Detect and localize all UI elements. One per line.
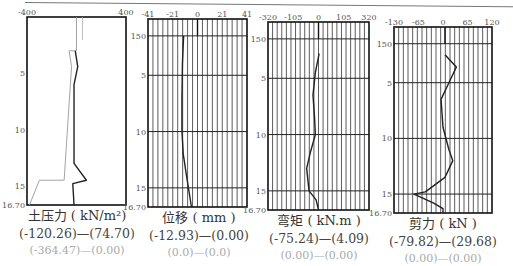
x-tick-label: 65	[462, 18, 472, 27]
x-tick-label: -65	[412, 18, 425, 27]
y-tick-label: 10	[256, 131, 266, 140]
earth-pressure-light-curve	[29, 17, 76, 205]
x-tick-label: 105	[336, 13, 351, 22]
x-tick-label: 0	[316, 13, 321, 22]
x-tick-label: -105	[284, 13, 302, 22]
y-tick-label: 10	[15, 126, 25, 135]
x-tick-label: -21	[166, 10, 179, 19]
x-tick-label: -41	[142, 10, 155, 19]
earth-pressure-dark-curve	[73, 51, 87, 205]
x-tick-label: 41	[242, 10, 252, 19]
y-tick-label: 5	[261, 74, 266, 83]
y-tick-label: 5	[141, 71, 146, 80]
displacement-curve	[182, 36, 192, 207]
y-tick-label: 10	[136, 128, 146, 137]
caption-range-primary: (-79.82)—(29.68)	[383, 233, 503, 251]
y-tick-label: 15	[256, 187, 266, 196]
caption-range-secondary: (0.0)—(0.0)	[140, 245, 258, 261]
x-tick-label: 400	[118, 8, 133, 17]
y-tick-label: 15	[15, 182, 25, 191]
x-tick-label: 0	[440, 18, 445, 27]
chart-panel-4: -130-650651201505101516.70	[369, 18, 500, 218]
x-tick-label: 320	[361, 13, 376, 22]
y-tick-label: 150	[131, 32, 146, 41]
caption-bending-moment: 弯矩 ( kN.m ) (-75.24)—(4.09) (0.00)—(0.00…	[260, 212, 378, 264]
caption-title: 剪力 ( kN )	[383, 215, 503, 233]
caption-range-secondary: (-364.47)—(0.00)	[18, 243, 136, 259]
chart-panel-1: -4004005101516.70	[2, 8, 134, 210]
y-tick-label: 15	[136, 184, 146, 193]
y-tick-label: 5	[387, 79, 392, 88]
y-tick-label: 150	[251, 35, 266, 44]
caption-title: 土压力 ( kN/m²)	[18, 207, 136, 225]
y-tick-label: 10	[382, 134, 392, 143]
y-tick-label: 150	[377, 40, 392, 49]
caption-shear-force: 剪力 ( kN ) (-79.82)—(29.68) (0.00)—(0.00)	[383, 215, 503, 266]
x-tick-label: -400	[18, 8, 36, 17]
caption-range-primary: (-120.26)—(74.70)	[18, 225, 136, 243]
x-tick-label: -130	[385, 18, 403, 27]
caption-range-secondary: (0.00)—(0.00)	[260, 248, 378, 264]
chart-panel-2: -41-21021411505101516.70	[123, 10, 252, 212]
caption-range-primary: (-75.24)—(4.09)	[260, 230, 378, 248]
x-tick-label: 120	[484, 18, 499, 27]
caption-title: 位移 ( mm )	[140, 209, 258, 227]
caption-earth-pressure: 土压力 ( kN/m²) (-120.26)—(74.70) (-364.47)…	[18, 207, 136, 259]
bending-moment-curve	[307, 54, 319, 210]
caption-title: 弯矩 ( kN.m )	[260, 212, 378, 230]
caption-range-secondary: (0.00)—(0.00)	[383, 251, 503, 266]
x-tick-label: 0	[195, 10, 200, 19]
x-tick-label: -320	[259, 13, 277, 22]
y-tick-label: 15	[382, 190, 392, 199]
chart-panel-3: -320-10501053201505101516.70	[243, 13, 377, 215]
caption-displacement: 位移 ( mm ) (-12.93)—(0.00) (0.0)—(0.0)	[140, 209, 258, 261]
y-tick-label: 5	[20, 69, 25, 78]
caption-range-primary: (-12.93)—(0.00)	[140, 227, 258, 245]
x-tick-label: 21	[217, 10, 227, 19]
